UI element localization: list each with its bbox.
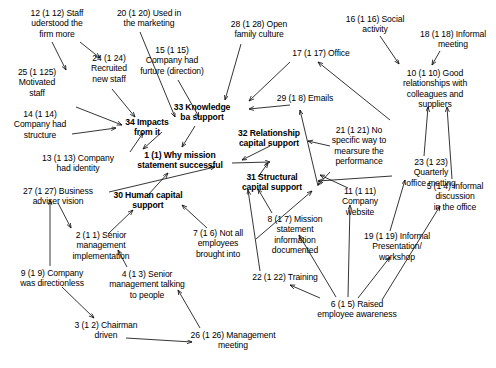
- edge-n29-to-n33: [249, 105, 290, 109]
- edge-n10-to-n17: [318, 62, 390, 120]
- node-n24[interactable]: 24 (1 24) Recruited new staff: [76, 53, 142, 84]
- edge-n6-to-n19: [358, 257, 390, 298]
- node-n12[interactable]: 12 (1 12) Staff uderstood the firm more: [9, 8, 105, 39]
- node-n17[interactable]: 17 (1 17) Office: [281, 48, 361, 58]
- node-n5[interactable]: 5 (1 4) Informal discussion in the offic…: [416, 181, 494, 212]
- node-n16[interactable]: 16 (1 16) Social activity: [332, 14, 418, 35]
- node-n26[interactable]: 26 (1 26) Management meeting: [175, 330, 291, 351]
- edge-n28-to-n33: [225, 44, 241, 100]
- edge-n24-to-n34: [112, 89, 135, 117]
- edge-n18-to-n10: [432, 51, 440, 65]
- node-n28[interactable]: 28 (1 28) Open family culture: [215, 19, 303, 40]
- edge-n6-to-n11: [348, 205, 350, 297]
- node-n20[interactable]: 20 (1 20) Used in the marketing: [101, 8, 197, 29]
- edge-n9-to-n3: [62, 287, 94, 318]
- node-n29[interactable]: 29 (1 8) Emails: [267, 93, 343, 103]
- node-n34[interactable]: 34 Impacts from it: [113, 117, 181, 138]
- node-n2[interactable]: 2 (1 1) Senior management implementation: [57, 230, 145, 261]
- node-n31[interactable]: 31 Structural capital support: [229, 172, 315, 193]
- node-n6[interactable]: 6 (1 5) Raised employee awareness: [302, 299, 412, 320]
- edge-n1-to-n32: [232, 162, 270, 163]
- node-n25[interactable]: 25 (1 125) Motivated staff: [4, 67, 70, 98]
- node-n10[interactable]: 10 (1 10) Good relationships with collea…: [386, 68, 484, 110]
- node-n11[interactable]: 11 (1 11) Company website: [329, 186, 391, 217]
- concept-map-diagram: 12 (1 12) Staff uderstood the firm more2…: [0, 0, 496, 368]
- edge-n33-to-n1: [182, 126, 195, 147]
- edge-n16-to-n10: [380, 36, 399, 64]
- node-n14[interactable]: 14 (1 14) Company had structure: [1, 109, 79, 140]
- node-n4[interactable]: 4 (1 3) Senior management talking to peo…: [95, 269, 199, 300]
- node-n9[interactable]: 9 (1 9) Company was directionless: [4, 268, 100, 289]
- node-n30[interactable]: 30 Human capital support: [99, 190, 197, 211]
- node-n19[interactable]: 19 (1 19) Informal Presentation/ worksho…: [352, 231, 442, 262]
- edge-n23-to-n31: [318, 176, 392, 181]
- edge-n23-to-n10: [424, 107, 428, 156]
- node-n27[interactable]: 27 (1 27) Business adviser vision: [7, 186, 109, 207]
- node-n7[interactable]: 7 (1 6) Not all employees brought into: [181, 228, 255, 259]
- edge-n6-to-n22: [290, 285, 320, 298]
- node-n3[interactable]: 3 (1 2) Chairman driven: [60, 320, 152, 341]
- node-n22[interactable]: 22 (1 22) Training: [241, 272, 329, 282]
- node-n32[interactable]: 32 Relationship capital support: [224, 128, 314, 149]
- node-n1[interactable]: 1 (1) Why mission statement successful: [126, 150, 234, 171]
- node-n8[interactable]: 8 (1 7) Mission statement information do…: [255, 214, 335, 256]
- node-n18[interactable]: 18 (1 18) Informal meeting: [410, 29, 496, 50]
- node-n21[interactable]: 21 (1 21) No specific way to mearsure th…: [318, 125, 400, 167]
- edge-n12-to-n25: [52, 42, 66, 70]
- node-n13[interactable]: 13 (1 13) Company had identity: [27, 153, 129, 174]
